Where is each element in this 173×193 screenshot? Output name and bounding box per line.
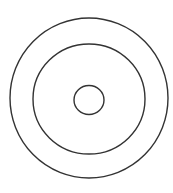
drawing-canvas <box>0 0 173 193</box>
middle-circle <box>33 44 145 154</box>
inner-circle <box>74 86 104 115</box>
concentric-circles-diagram <box>0 0 173 193</box>
